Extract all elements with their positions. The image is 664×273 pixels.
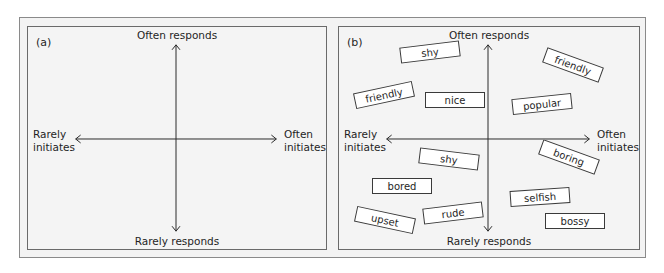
word-tag: bossy: [545, 213, 605, 229]
word-tag: nice: [425, 92, 485, 108]
panel-b: (b) Often responds Rarely responds Rarel…: [338, 26, 640, 250]
axis-label-top: Often responds: [137, 29, 217, 42]
panel-label: (b): [347, 36, 363, 49]
axis-label-right: Often initiates: [597, 128, 639, 154]
axis-label-left: Rarely initiates: [344, 128, 386, 154]
axis-label-left-line1: Rarely: [33, 128, 75, 141]
axis-label-right-line1: Often: [284, 128, 326, 141]
axis-label-top: Often responds: [449, 29, 529, 42]
word-tag: bored: [372, 178, 432, 194]
axis-label-left-line1: Rarely: [344, 128, 386, 141]
axis-label-right: Often initiates: [284, 128, 326, 154]
axis-label-left-line2: initiates: [33, 141, 75, 154]
axis-label-right-line2: initiates: [597, 141, 639, 154]
panel-label: (a): [36, 36, 51, 49]
axis-label-right-line1: Often: [597, 128, 639, 141]
axis-label-right-line2: initiates: [284, 141, 326, 154]
axis-label-left: Rarely initiates: [33, 128, 75, 154]
axis-label-bottom: Rarely responds: [135, 235, 219, 248]
panel-a: (a) Often responds Rarely responds Rarel…: [27, 26, 327, 250]
axis-label-bottom: Rarely responds: [447, 235, 531, 248]
axis-label-left-line2: initiates: [344, 141, 386, 154]
